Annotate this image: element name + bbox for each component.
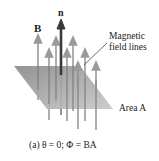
normal-vector-label: n: [58, 7, 64, 18]
field-lines-label: Magnetic field lines: [109, 31, 147, 53]
field-lines-label-line2: field lines: [109, 42, 147, 53]
field-vector-label: B: [34, 22, 41, 34]
area-label: Area A: [119, 103, 146, 113]
area-plane: [14, 66, 113, 109]
field-lines-label-line1: Magnetic: [109, 31, 147, 42]
figure-caption: (a) θ = 0; Φ = BA: [29, 140, 97, 150]
magnetic-flux-diagram: [0, 0, 159, 161]
